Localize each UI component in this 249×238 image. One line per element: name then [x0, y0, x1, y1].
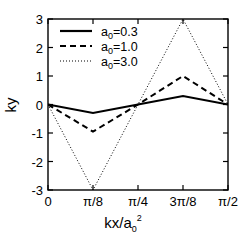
- legend-label-a0-3: a0=3.0: [101, 55, 138, 71]
- x-axis-title-superscript: 2: [137, 213, 142, 223]
- legend-label-a0-0.3: a0=0.3: [101, 25, 138, 41]
- y-axis-title: ky: [2, 97, 19, 113]
- x-tick-label: π/8: [83, 194, 103, 209]
- x-tick-label: 3π/8: [169, 194, 196, 209]
- y-tick-label: 2: [36, 41, 43, 56]
- y-tick-label: -2: [31, 155, 43, 170]
- legend-label-a0-1: a0=1.0: [101, 40, 138, 56]
- chart-figure: 3 2 1 0 -1 -2 -3 0 π/8 π/4 3π/8 π/2 ky k…: [0, 0, 249, 238]
- x-axis-title-subscript: 0: [132, 224, 137, 234]
- y-tick-label: 3: [36, 12, 43, 27]
- y-tick-label: -3: [31, 183, 43, 198]
- y-tick-label: -1: [31, 126, 43, 141]
- x-tick-label: 0: [44, 194, 51, 209]
- x-tick-label: π/2: [218, 194, 238, 209]
- x-axis-title-base: kx/a: [104, 214, 132, 231]
- chart-svg: 3 2 1 0 -1 -2 -3 0 π/8 π/4 3π/8 π/2 ky k…: [0, 0, 249, 238]
- x-tick-label: π/4: [128, 194, 148, 209]
- y-tick-label: 0: [36, 98, 43, 113]
- y-tick-label: 1: [36, 69, 43, 84]
- x-axis-title: kx/a02: [104, 213, 142, 234]
